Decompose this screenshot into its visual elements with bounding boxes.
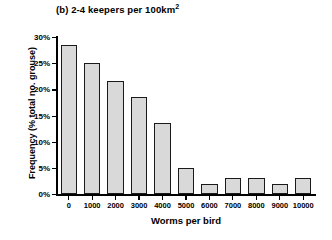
- y-tick-mark: [52, 194, 56, 195]
- x-tick-label: 6000: [201, 201, 218, 210]
- bar: [84, 63, 100, 194]
- y-tick-mark: [52, 37, 56, 38]
- y-tick-label: 25%: [34, 59, 50, 68]
- plot-area: 0%5%10%15%20%25%30% 01000200030004000500…: [57, 37, 315, 194]
- chart-title-superscript: 2: [175, 3, 179, 10]
- x-tick-mark: [138, 196, 139, 200]
- bar: [225, 178, 241, 194]
- x-tick-label: 1000: [84, 201, 101, 210]
- y-tick-mark: [52, 116, 56, 117]
- chart-title: (b) 2-4 keepers per 100km2: [56, 3, 179, 15]
- x-tick-mark: [279, 196, 280, 200]
- x-tick-mark: [92, 196, 93, 200]
- y-tick-label: 5%: [38, 163, 50, 172]
- bar: [272, 184, 288, 194]
- x-tick-mark: [232, 196, 233, 200]
- x-tick-mark: [209, 196, 210, 200]
- y-tick-mark: [52, 168, 56, 169]
- bar: [61, 45, 77, 194]
- x-tick-label: 0: [67, 201, 71, 210]
- bar: [107, 81, 123, 194]
- bar: [154, 123, 170, 194]
- bar: [131, 97, 147, 194]
- x-tick-label: 3000: [131, 201, 148, 210]
- x-tick-label: 4000: [154, 201, 171, 210]
- y-tick-label: 30%: [34, 33, 50, 42]
- x-tick-mark: [256, 196, 257, 200]
- x-tick-label: 8000: [248, 201, 265, 210]
- chart-title-text: (b) 2-4 keepers per 100km: [56, 4, 175, 15]
- x-tick-mark: [303, 196, 304, 200]
- bar: [178, 168, 194, 194]
- x-tick-label: 5000: [178, 201, 195, 210]
- x-tick-label: 9000: [271, 201, 288, 210]
- x-axis-title: Worms per bird: [57, 215, 315, 226]
- y-tick-label: 0%: [38, 190, 50, 199]
- x-tick-label: 10000: [293, 201, 314, 210]
- y-tick-label: 15%: [34, 111, 50, 120]
- x-tick-mark: [185, 196, 186, 200]
- y-tick-mark: [52, 89, 56, 90]
- chart-figure: (b) 2-4 keepers per 100km2 Frequency (% …: [0, 0, 332, 240]
- y-tick-mark: [52, 63, 56, 64]
- x-tick-mark: [68, 196, 69, 200]
- x-tick-mark: [115, 196, 116, 200]
- x-tick-label: 2000: [107, 201, 124, 210]
- bar: [295, 178, 311, 194]
- y-tick-mark: [52, 142, 56, 143]
- x-tick-mark: [162, 196, 163, 200]
- x-tick-label: 7000: [225, 201, 242, 210]
- y-tick-label: 20%: [34, 85, 50, 94]
- y-tick-label: 10%: [34, 137, 50, 146]
- bar: [248, 178, 264, 194]
- bar: [201, 184, 217, 194]
